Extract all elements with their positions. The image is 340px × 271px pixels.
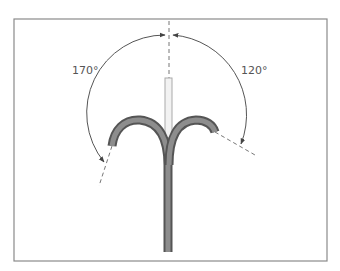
right-tip-direction-line: [215, 132, 255, 155]
right-angle-label: 120°: [241, 64, 268, 77]
catheter: [112, 120, 215, 252]
left-angle-label: 170°: [72, 64, 99, 77]
left-angle-arc: [87, 35, 165, 162]
guide-rod: [165, 78, 172, 138]
diagram-canvas: 170° 120°: [0, 0, 340, 271]
left-tip-direction-line: [99, 146, 112, 186]
